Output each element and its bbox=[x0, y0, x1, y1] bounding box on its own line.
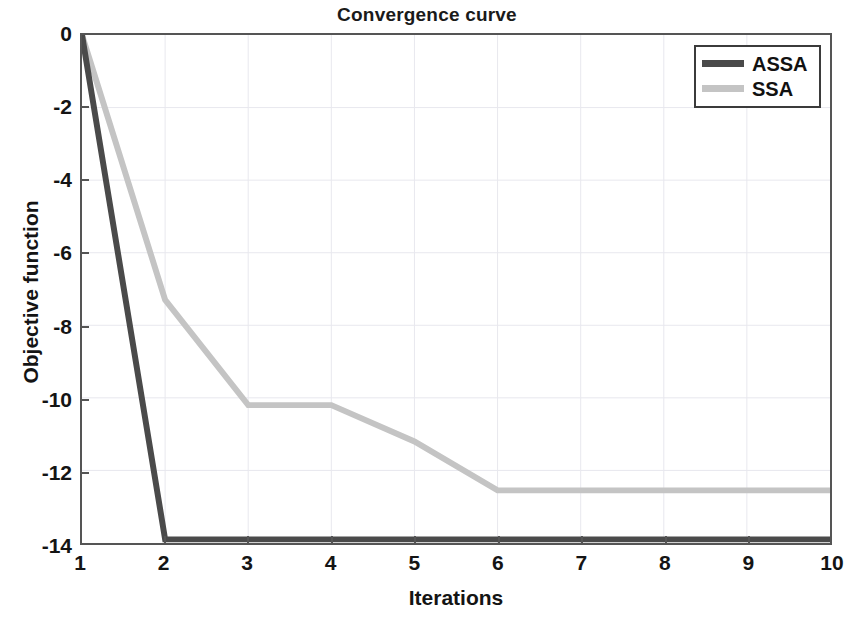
legend-label: ASSA bbox=[752, 54, 808, 74]
y-tick-mark bbox=[80, 252, 89, 254]
x-tick-mark bbox=[665, 536, 667, 545]
x-tick-mark bbox=[581, 536, 583, 545]
y-tick-label: -2 bbox=[8, 96, 72, 117]
x-tick-mark bbox=[748, 536, 750, 545]
x-tick-label: 1 bbox=[50, 552, 110, 574]
legend-label: SSA bbox=[752, 79, 793, 99]
y-tick-mark bbox=[80, 472, 89, 474]
y-tick-mark bbox=[80, 399, 89, 401]
x-tick-mark bbox=[247, 536, 249, 545]
x-tick-label: 6 bbox=[468, 552, 528, 574]
x-tick-mark bbox=[331, 536, 333, 545]
plot-area bbox=[80, 33, 832, 545]
chart-title: Convergence curve bbox=[0, 2, 854, 28]
legend-item-assa[interactable]: ASSA bbox=[702, 51, 813, 76]
legend-item-ssa[interactable]: SSA bbox=[702, 76, 813, 101]
legend: ASSASSA bbox=[694, 45, 821, 108]
x-tick-mark bbox=[498, 536, 500, 545]
convergence-curve-figure: Convergence curve 0-2-4-6-8-10-12-14 123… bbox=[0, 0, 854, 618]
x-axis-tick-labels: 12345678910 bbox=[0, 552, 854, 580]
x-tick-label: 8 bbox=[635, 552, 695, 574]
x-tick-mark bbox=[414, 536, 416, 545]
x-tick-label: 7 bbox=[551, 552, 611, 574]
y-tick-mark bbox=[80, 106, 89, 108]
x-tick-label: 2 bbox=[134, 552, 194, 574]
y-axis-label: Objective function bbox=[19, 122, 43, 462]
series-layer bbox=[82, 35, 830, 543]
x-tick-mark bbox=[164, 536, 166, 545]
y-tick-mark bbox=[80, 326, 89, 328]
x-tick-label: 3 bbox=[217, 552, 277, 574]
x-tick-label: 9 bbox=[718, 552, 778, 574]
y-tick-label: -12 bbox=[8, 461, 72, 482]
y-tick-mark bbox=[80, 179, 89, 181]
legend-swatch-assa bbox=[702, 60, 744, 67]
x-tick-label: 10 bbox=[802, 552, 854, 574]
legend-swatch-ssa bbox=[702, 85, 744, 92]
x-tick-label: 5 bbox=[384, 552, 444, 574]
x-tick-label: 4 bbox=[301, 552, 361, 574]
x-axis-label: Iterations bbox=[80, 586, 832, 610]
y-tick-label: 0 bbox=[8, 23, 72, 44]
